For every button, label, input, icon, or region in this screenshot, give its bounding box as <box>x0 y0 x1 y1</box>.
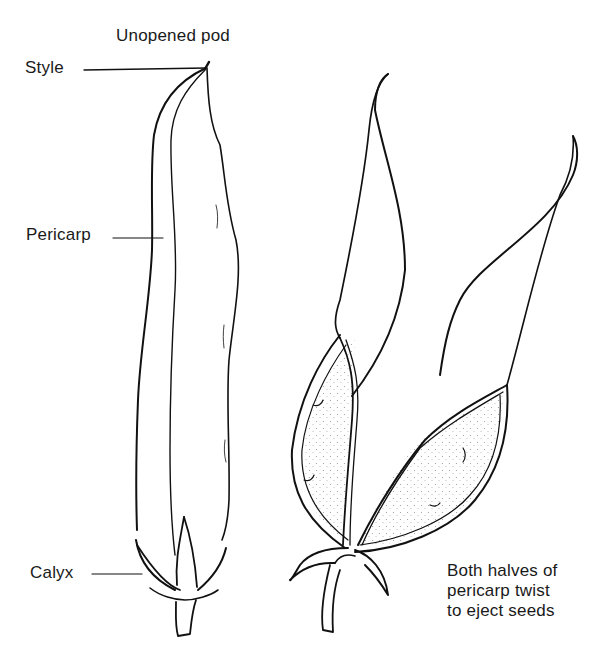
leader-style <box>84 68 206 70</box>
seed-cavity-left <box>304 338 355 540</box>
seed-cavity-right <box>360 392 504 545</box>
opened-pod <box>290 74 577 632</box>
unopened-pod <box>136 62 238 636</box>
pod-illustration <box>0 0 613 656</box>
